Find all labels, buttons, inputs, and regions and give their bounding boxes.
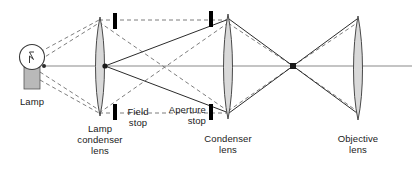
lamp-base [24, 67, 40, 89]
label-objective-lens: Objective lens [322, 133, 394, 155]
lamp-source [20, 45, 47, 90]
label-field-stop: Field stop [120, 106, 156, 128]
field-stop-bar-bottom [113, 104, 117, 120]
label-condenser-lens: Condenser lens [186, 133, 270, 155]
field-stop-bar-top [113, 13, 117, 29]
label-aperture-stop: Aperture stop [152, 104, 206, 126]
label-lamp: Lamp [8, 96, 56, 107]
lamp-condenser-focus-node [102, 63, 107, 68]
optical-diagram-page: Lamp Lamp condenser lens Field stop Aper… [0, 0, 417, 172]
lamp-emission-point [42, 64, 46, 68]
objective-lens-body [354, 16, 363, 120]
aperture-stop-bar-bottom [209, 104, 213, 120]
aperture-stop-bar-top [209, 11, 213, 27]
condenser-lens [224, 14, 233, 119]
condenser-lens-body [224, 14, 233, 119]
objective-lens [354, 16, 363, 120]
specimen-plane-node [290, 63, 296, 69]
